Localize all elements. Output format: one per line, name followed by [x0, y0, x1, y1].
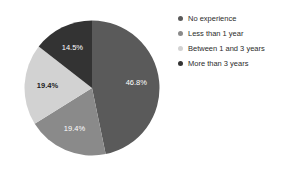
legend-item-more-than-3-years[interactable]: More than 3 years: [178, 56, 280, 71]
legend-item-label: Less than 1 year: [188, 30, 243, 38]
chart-legend: No experience Less than 1 year Between 1…: [178, 11, 280, 71]
legend-item-label: More than 3 years: [188, 60, 248, 68]
pie-slice-value-label: 19.4%: [64, 124, 86, 133]
legend-item-label: Between 1 and 3 years: [188, 45, 265, 53]
pie-chart-plot-area: 46.8%19.4%19.4%14.5%: [24, 20, 160, 156]
pie-slice-value-label: 46.8%: [126, 78, 148, 87]
legend-marker-icon: [178, 46, 183, 51]
pie-slice-value-label: 14.5%: [62, 43, 84, 52]
legend-item-label: No experience: [188, 15, 236, 23]
legend-item-between-1-and-3-years[interactable]: Between 1 and 3 years: [178, 41, 280, 56]
pie-chart-svg: 46.8%19.4%19.4%14.5%: [24, 20, 160, 156]
legend-marker-icon: [178, 61, 183, 66]
pie-slice-value-label: 19.4%: [37, 81, 59, 90]
pie-chart-figure: 46.8%19.4%19.4%14.5% No experience Less …: [0, 0, 282, 178]
legend-marker-icon: [178, 31, 183, 36]
legend-item-no-experience[interactable]: No experience: [178, 11, 280, 26]
legend-item-less-than-1-year[interactable]: Less than 1 year: [178, 26, 280, 41]
legend-marker-icon: [178, 16, 183, 21]
